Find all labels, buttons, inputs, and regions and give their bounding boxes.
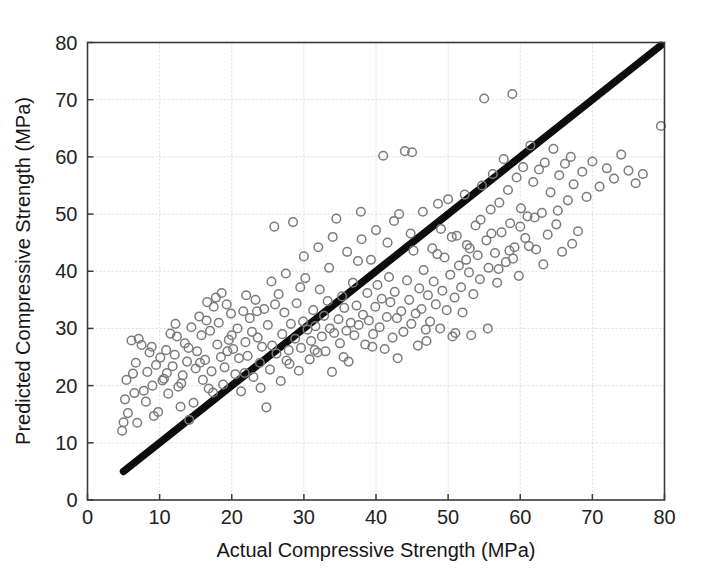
- y-tick-label: 70: [55, 89, 77, 111]
- y-tick-label: 0: [66, 489, 77, 511]
- scatter-plot-figure: 01020304050607080 01020304050607080 Actu…: [0, 0, 705, 582]
- x-tick-label: 0: [82, 506, 93, 528]
- y-tick-label: 10: [55, 432, 77, 454]
- y-tick-label: 80: [55, 32, 77, 54]
- x-tick-label: 60: [509, 506, 531, 528]
- y-tick-label: 20: [55, 375, 77, 397]
- plot-svg: 01020304050607080 01020304050607080 Actu…: [0, 0, 705, 582]
- x-tick-label: 40: [365, 506, 387, 528]
- y-axis-title: Predicted Compressive Strength (MPa): [12, 97, 34, 445]
- y-tick-label: 40: [55, 260, 77, 282]
- x-tick-label: 50: [437, 506, 459, 528]
- x-tick-label: 80: [653, 506, 675, 528]
- x-axis-title: Actual Compressive Strength (MPa): [216, 539, 535, 561]
- y-tick-label: 50: [55, 203, 77, 225]
- y-tick-label: 60: [55, 146, 77, 168]
- x-tick-label: 70: [581, 506, 603, 528]
- x-tick-label: 10: [149, 506, 171, 528]
- y-tick-label: 30: [55, 317, 77, 339]
- x-tick-label: 30: [293, 506, 315, 528]
- x-tick-label: 20: [221, 506, 243, 528]
